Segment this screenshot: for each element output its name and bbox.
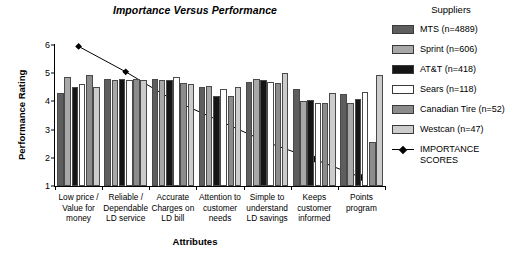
bar xyxy=(347,103,354,186)
bar xyxy=(133,79,140,186)
bar xyxy=(140,80,147,186)
bar xyxy=(322,103,329,186)
legend-item-label: MTS (n=4889) xyxy=(420,24,478,35)
x-axis-tick-mark xyxy=(55,186,56,190)
legend-items: MTS (n=4889)Sprint (n=606)AT&T (n=418)Se… xyxy=(392,24,528,135)
legend-item-label: IMPORTANCESCORES xyxy=(420,144,479,166)
bar xyxy=(166,80,173,186)
legend-title: Suppliers xyxy=(392,4,510,15)
bar xyxy=(64,77,71,186)
bar xyxy=(112,80,119,186)
bar xyxy=(315,103,322,186)
bar xyxy=(199,87,206,186)
bar xyxy=(329,93,336,186)
x-axis-tick-mark xyxy=(244,186,245,190)
bar xyxy=(173,77,180,186)
x-axis-category-label: Attention tocustomerneeds xyxy=(193,192,246,224)
legend-item-importance-scores: IMPORTANCESCORES xyxy=(392,144,528,166)
bar xyxy=(126,80,133,186)
legend-item: Sprint (n=606) xyxy=(392,44,528,55)
bar xyxy=(267,82,274,186)
x-axis-tick-mark xyxy=(149,186,150,190)
y-axis-tick-mark xyxy=(51,129,55,130)
bar xyxy=(376,75,383,186)
legend-item: Canadian Tire (n=52) xyxy=(392,104,528,115)
legend-swatch xyxy=(392,85,414,94)
y-axis-tick-mark xyxy=(51,101,55,102)
bar xyxy=(206,86,213,186)
x-axis-category-label: Simple tounderstandLD savings xyxy=(241,192,294,224)
x-axis-tick-mark xyxy=(291,186,292,190)
bar xyxy=(340,94,347,186)
bar xyxy=(369,142,376,186)
bar xyxy=(119,79,126,186)
legend-swatch xyxy=(392,65,414,74)
bar xyxy=(180,83,187,186)
legend-swatch xyxy=(392,105,414,114)
legend-item-label: Westcan (n=47) xyxy=(420,124,484,135)
bar xyxy=(362,92,369,186)
legend-swatch xyxy=(392,125,414,134)
x-axis-tick-mark xyxy=(196,186,197,190)
bar xyxy=(159,80,166,186)
bar xyxy=(104,79,111,186)
importance-line-marker-icon xyxy=(392,145,414,154)
bar xyxy=(307,100,314,186)
bar xyxy=(275,83,282,186)
x-axis-category-label: Reliable /DependableLD service xyxy=(99,192,152,224)
x-axis-line xyxy=(54,186,386,187)
legend-item: Sears (n=118) xyxy=(392,84,528,95)
legend-swatch xyxy=(392,25,414,34)
bar xyxy=(260,80,267,186)
x-axis-category-label: AccurateCharges onLD bill xyxy=(146,192,199,224)
bar xyxy=(86,75,93,186)
bar xyxy=(246,82,253,186)
legend-item-label: Sears (n=118) xyxy=(420,84,477,95)
bar xyxy=(228,96,235,186)
bar xyxy=(220,89,227,186)
bar xyxy=(300,101,307,186)
x-axis-tick-mark xyxy=(385,186,386,190)
x-axis-category-label: Keepscustomerinformed xyxy=(288,192,341,224)
bar xyxy=(93,87,100,186)
bar xyxy=(152,79,159,186)
x-axis-tick-mark xyxy=(102,186,103,190)
plot-area: 123456Low price /Value formoneyReliable … xyxy=(55,45,385,186)
y-axis-title: Performance Rating xyxy=(16,70,27,160)
y-axis-tick-mark xyxy=(51,157,55,158)
bar xyxy=(72,87,79,186)
bar xyxy=(253,79,260,186)
y-axis-tick-mark xyxy=(51,45,55,46)
legend-item-label: AT&T (n=418) xyxy=(420,64,476,75)
x-axis-title: Attributes xyxy=(0,236,390,247)
bar xyxy=(188,84,195,186)
bar xyxy=(235,87,242,186)
legend-item: AT&T (n=418) xyxy=(392,64,528,75)
legend-swatch xyxy=(392,45,414,54)
bar xyxy=(57,93,64,186)
bar xyxy=(355,99,362,186)
y-axis-tick-mark xyxy=(51,73,55,74)
legend: Suppliers MTS (n=4889)Sprint (n=606)AT&T… xyxy=(392,4,528,166)
legend-item-label: Sprint (n=606) xyxy=(420,44,477,55)
bar xyxy=(282,73,289,186)
legend-item-label: Canadian Tire (n=52) xyxy=(420,104,505,115)
chart-title: Importance Versus Performance xyxy=(0,4,390,16)
chart-root: Importance Versus Performance Performanc… xyxy=(0,0,528,261)
bar xyxy=(293,89,300,186)
x-axis-tick-mark xyxy=(338,186,339,190)
x-axis-category-label: Low price /Value formoney xyxy=(52,192,105,224)
bar xyxy=(79,84,86,186)
legend-item: Westcan (n=47) xyxy=(392,124,528,135)
x-axis-category-label: Pointsprogram xyxy=(335,192,388,213)
bar xyxy=(213,96,220,186)
legend-item: MTS (n=4889) xyxy=(392,24,528,35)
